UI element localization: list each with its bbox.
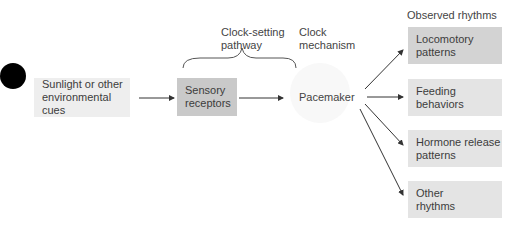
node-environmental-cues: Sunlight or other environmental cues <box>34 78 130 117</box>
node-label: Other rhythms <box>416 187 455 213</box>
heading-observed-rhythms: Observed rhythms <box>407 9 497 22</box>
node-feeding-behaviors: Feeding behaviors <box>408 79 502 116</box>
node-pacemaker: Pacemaker <box>299 91 355 104</box>
node-label: Locomotory patterns <box>416 33 473 59</box>
node-sensory-receptors: Sensory receptors <box>177 78 237 116</box>
node-label: Sensory receptors <box>185 84 231 110</box>
node-label: Hormone release patterns <box>416 136 500 162</box>
node-locomotory-patterns: Locomotory patterns <box>408 27 502 64</box>
node-hormone-release: Hormone release patterns <box>408 130 502 167</box>
heading-clock-mechanism: Clock mechanism <box>299 26 355 52</box>
node-label: Feeding behaviors <box>416 85 464 111</box>
node-label: Sunlight or other environmental cues <box>42 78 130 117</box>
heading-clock-setting: Clock-setting pathway <box>221 26 285 52</box>
node-other-rhythms: Other rhythms <box>408 181 502 218</box>
